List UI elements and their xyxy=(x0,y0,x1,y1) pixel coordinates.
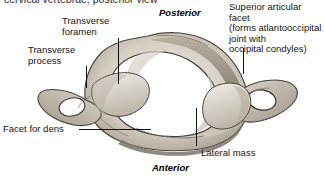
label-transverse-foramen: Transverse foramen xyxy=(62,16,109,37)
label-transverse-process-line2: process xyxy=(28,56,75,67)
figure-caption-text: cervical vertebrae; posterior view xyxy=(4,0,234,5)
leader-superior-articular-facet xyxy=(243,48,244,74)
label-superior-articular-facet: Superior articular facet (forms atlantoo… xyxy=(229,2,324,55)
leader-transverse-process xyxy=(86,66,87,88)
figure-caption-clipped: cervical vertebrae; posterior view xyxy=(4,0,234,7)
orientation-label-posterior: Posterior xyxy=(159,7,201,18)
leader-lateral-mass xyxy=(196,108,197,146)
anatomy-figure: cervical vertebrae; posterior view xyxy=(0,0,324,179)
label-superior-articular-facet-line2: (forms atlantooccipital xyxy=(229,23,324,34)
leader-transverse-foramen xyxy=(118,38,119,84)
label-transverse-process: Transverse process xyxy=(28,45,75,66)
orientation-label-anterior: Anterior xyxy=(152,162,189,173)
label-transverse-foramen-line1: Transverse xyxy=(62,16,109,27)
label-lateral-mass: Lateral mass xyxy=(201,148,255,159)
leader-facet-for-dens xyxy=(79,129,151,130)
label-facet-for-dens: Facet for dens xyxy=(3,124,64,135)
label-transverse-foramen-line2: foramen xyxy=(62,27,109,38)
label-superior-articular-facet-line1: Superior articular facet xyxy=(229,2,324,23)
label-transverse-process-line1: Transverse xyxy=(28,45,75,56)
